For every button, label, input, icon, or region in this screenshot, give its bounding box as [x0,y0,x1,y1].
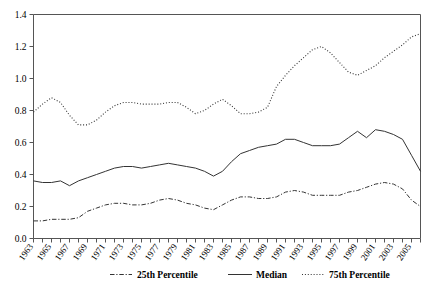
y-axis-tick-label: 0.0 [15,234,27,244]
x-axis-tick-label: 1965 [35,242,54,263]
y-axis-tick-label: 1.0 [15,74,27,84]
percentile-line-chart: 0.00.20.40.60.81.01.21.41963196519671969… [0,0,438,294]
x-axis-tick-label: 1989 [251,242,270,263]
x-axis-tick-label: 1975 [125,242,144,263]
x-axis-tick-label: 1993 [287,242,306,263]
y-axis-tick-label: 0.8 [15,106,27,116]
y-axis-tick-label: 0.6 [15,138,27,148]
x-axis-tick-label: 1985 [215,242,234,263]
chart-container: 0.00.20.40.60.81.01.21.41963196519671969… [0,0,438,294]
series-line-dash-dot [34,183,421,221]
x-axis-tick-label: 1973 [107,242,126,263]
x-axis-tick-label: 1977 [143,242,162,263]
y-axis-tick-label: 0.4 [15,170,27,180]
x-axis-tick-label: 1981 [179,242,198,262]
x-axis-tick-label: 1963 [17,242,36,263]
x-axis-tick-label: 1979 [161,242,180,263]
x-axis-tick-label: 1967 [53,242,72,263]
x-axis-tick-label: 2003 [377,242,396,263]
y-axis-tick-label: 0.2 [15,202,27,212]
y-axis-tick-label: 1.2 [15,42,27,52]
x-axis-tick-label: 1995 [305,242,324,263]
series-line-dotted [34,34,421,125]
legend-label-1: Median [256,270,288,280]
x-axis-tick-label: 2001 [359,242,378,262]
x-axis-tick-label: 1991 [269,242,288,262]
legend-label-0: 25th Percentile [137,270,198,280]
legend-label-2: 75th Percentile [329,270,390,280]
x-axis-tick-label: 1983 [197,242,216,263]
x-axis-tick-label: 1987 [233,242,252,263]
x-axis-tick-label: 2005 [395,242,414,263]
series-line-solid [34,130,421,186]
x-axis-tick-label: 1997 [323,242,342,263]
plot-frame [34,15,421,239]
y-axis-tick-label: 1.4 [15,10,27,20]
x-axis-tick-label: 1999 [341,242,360,263]
x-axis-tick-label: 1971 [89,242,108,262]
x-axis-tick-label: 1969 [71,242,90,263]
